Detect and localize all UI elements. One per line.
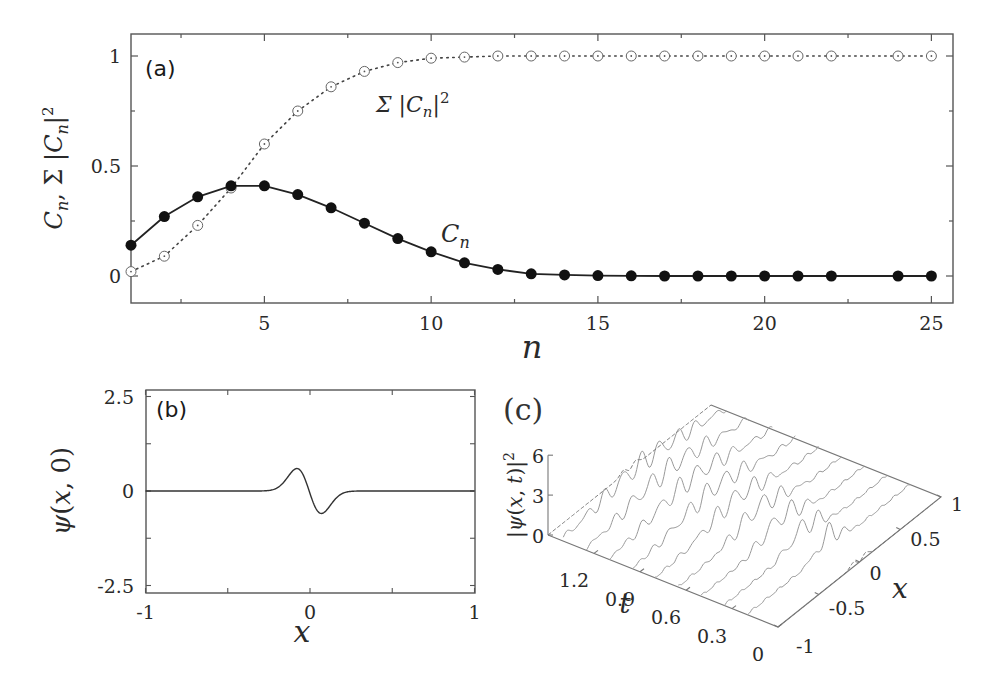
cn-marker [926,271,937,282]
cn-marker [159,211,170,222]
cn-marker [759,271,770,282]
psi-curve [146,469,475,514]
x-tick-label: -1 [796,635,815,657]
sum-marker-dot [797,55,799,57]
cn-marker [259,180,270,191]
t-tick [686,587,690,590]
x-tick [896,528,900,530]
y-tick-label: 2.5 [104,386,134,408]
sum-marker-dot [697,55,699,57]
sum-marker-dot [430,57,432,59]
sum-marker-dot [264,143,266,145]
sum-marker-dot [297,110,299,112]
cn-marker [659,271,670,282]
cn-line [131,186,931,276]
x-tick-label: -1 [136,601,155,623]
time-slice-curve [724,476,887,606]
cn-marker [526,268,537,279]
panel-a-ylabel: Cn, Σ |Cn|2 [39,107,72,230]
t-tick-label: 1.2 [559,569,589,591]
sum-marker-dot [364,71,366,73]
x-tick [815,593,819,595]
panel-a-ticks: 51015202500.51 [91,34,953,334]
x-tick-label: -0.5 [829,597,866,619]
panel-c-zlabel: |ψ(x, t)|2 [501,452,528,538]
sum-marker-dot [464,56,466,58]
cn-marker [793,271,804,282]
x-tick-label: 1 [951,493,963,515]
z-tick-label: 6 [532,445,544,467]
t-tick [732,606,736,609]
t-tick-label: 0.3 [697,625,727,647]
cn-marker [392,233,403,244]
panel-b-label: (b) [156,397,187,422]
panel-b-chart: -101-2.502.5 (b) x ψ(x, 0) [46,386,481,650]
x-tick-label: 0 [870,562,882,584]
series-sum-cn-squared [126,51,936,277]
annotation-cn: Cn [441,220,470,252]
cn-marker [592,270,603,281]
t-tick [640,569,644,572]
panel-c-xlabel: x [892,572,908,605]
panel-c-tlabel: t [619,587,631,620]
sum-marker-dot [630,55,632,57]
cn-marker [292,189,303,200]
cn-marker [459,257,470,268]
cn-marker [559,269,570,280]
cn-marker [893,271,904,282]
time-slice-curve [747,485,910,615]
sum-marker-dot [530,55,532,57]
cn-marker [326,202,337,213]
sum-marker-dot [597,55,599,57]
sum-marker-dot [197,225,199,227]
x-tick-label: 25 [919,312,943,334]
figure: 51015202500.51 (a) Σ |Cn|2 Cn n Cn, Σ |C… [0,0,986,679]
panel-b-xlabel: x [294,614,311,649]
z-tick-label: 0 [532,525,544,547]
sum-marker-dot [497,55,499,57]
x-tick-label: 15 [586,312,610,334]
sum-marker-dot [397,62,399,64]
cn-marker [226,180,237,191]
sum-marker-dot [564,55,566,57]
cn-marker [726,271,737,282]
y-tick-label: 0 [122,480,134,502]
time-slice-curve [655,446,818,577]
cn-marker [492,264,503,275]
panel-a-xlabel: n [522,328,543,366]
time-slice-curve [548,405,711,535]
t-tick-label: 0 [752,643,764,665]
y-tick-label: 0 [109,265,121,287]
cn-marker [426,246,437,257]
cn-marker [192,191,203,202]
panel-c-chart: 03600.30.60.91.2-1-0.500.51 (c) |ψ(x, t)… [501,392,963,665]
time-slice-curve [563,411,726,538]
cn-marker [692,271,703,282]
panel-a-frame [131,34,953,303]
panel-a-label: (a) [145,56,176,81]
time-slice-curve [632,436,795,569]
time-slice-curve [701,466,864,595]
sum-marker-dot [730,55,732,57]
panel-b-ylabel: ψ(x, 0) [46,447,76,535]
t-tick [594,550,598,553]
sum-marker-dot [830,55,832,57]
sum-marker-dot [931,55,933,57]
z-tick-label: 3 [532,485,544,507]
cn-marker [826,271,837,282]
t-tick-label: 0.6 [651,606,681,628]
cn-marker [126,240,137,251]
y-tick-label: 0.5 [91,155,121,177]
annotation-sum-cn-squared: Σ |Cn|2 [375,89,449,121]
panel-c-label: (c) [503,392,543,427]
sum-marker-dot [897,55,899,57]
x-tick-label: 1 [468,601,480,623]
x-tick-label: 5 [258,312,270,334]
sum-marker-dot [664,55,666,57]
panel-b-ticks: -101-2.502.5 [97,386,480,624]
sum-line [131,56,931,272]
sum-marker-dot [130,271,132,273]
sum-marker-dot [330,86,332,88]
x-tick-label: 10 [419,312,443,334]
x-tick-label: 0.5 [910,528,940,550]
